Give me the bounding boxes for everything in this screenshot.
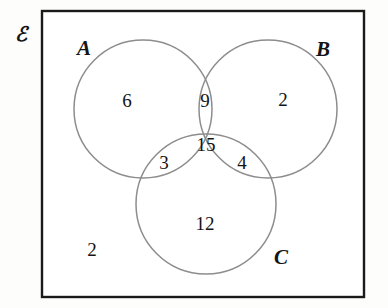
set-label-a: A — [77, 38, 91, 59]
universal-set-symbol: ℰ — [15, 24, 27, 44]
region-count-a-and-c: 3 — [159, 153, 169, 172]
set-label-b: B — [316, 39, 330, 60]
region-count-c-only: 12 — [196, 214, 215, 233]
region-count-b-and-c: 4 — [237, 153, 247, 172]
region-count-b-only: 2 — [278, 90, 288, 109]
region-count-a-b-c: 15 — [197, 135, 216, 154]
region-count-a-only: 6 — [122, 91, 132, 110]
set-label-c: C — [274, 247, 288, 268]
venn-diagram-canvas: ℰ A B C 6 9 2 15 3 4 12 2 — [0, 0, 388, 308]
region-count-outside: 2 — [87, 240, 97, 259]
region-count-a-and-b: 9 — [200, 91, 210, 110]
